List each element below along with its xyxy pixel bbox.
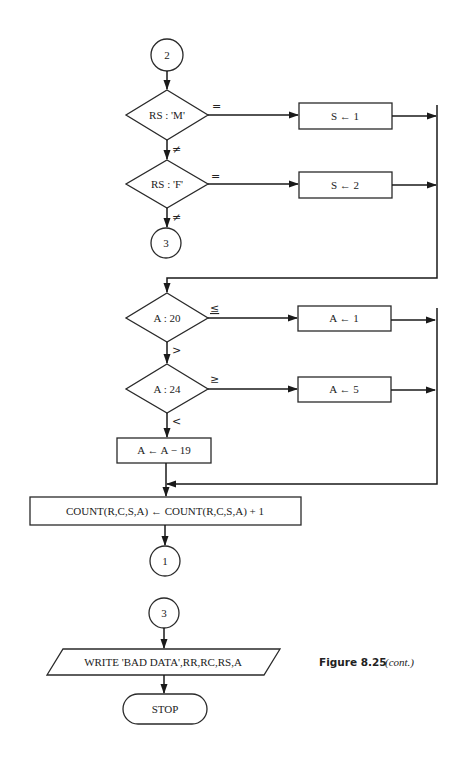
- decision-rs-f-label: RS : 'F': [151, 178, 183, 190]
- connector-3-exit: 3: [151, 228, 181, 258]
- decision-a-20-label: A : 20: [154, 312, 181, 324]
- process-s-1-label: S ← 1: [331, 110, 359, 122]
- decision-a-20: A : 20: [126, 293, 208, 342]
- io-write-label: WRITE 'BAD DATA',RR,RC,RS,A: [84, 656, 242, 668]
- decision-rs-m: RS : 'M': [126, 90, 208, 140]
- process-a-minus-19: A ← A − 19: [117, 438, 211, 463]
- process-s-2-label: S ← 2: [331, 179, 359, 191]
- io-write-bad-data: WRITE 'BAD DATA',RR,RC,RS,A: [47, 649, 280, 675]
- figure-caption-note: (cont.): [385, 656, 414, 669]
- connector-3-exit-label: 3: [163, 237, 169, 249]
- process-a-1: A ← 1: [298, 306, 391, 331]
- decision-a-24: A : 24: [126, 364, 208, 413]
- rs-m-equal-label: =: [212, 100, 221, 113]
- a-20-gt-label: >: [172, 344, 181, 357]
- process-count-increment: COUNT(R,C,S,A) ← COUNT(R,C,S,A) + 1: [30, 497, 301, 525]
- process-a-minus-19-label: A ← A − 19: [137, 444, 191, 456]
- process-count-label: COUNT(R,C,S,A) ← COUNT(R,C,S,A) + 1: [66, 505, 264, 518]
- decision-a-24-label: A : 24: [154, 383, 181, 395]
- process-a-5: A ← 5: [298, 377, 391, 402]
- rs-m-notequal-label: ≠: [172, 143, 181, 156]
- process-s-2: S ← 2: [299, 172, 392, 198]
- rs-f-notequal-label: ≠: [172, 211, 181, 224]
- figure-caption: Figure 8.25: [319, 656, 387, 668]
- flowchart-diagram: 2 RS : 'M' = ≠ S ← 1 RS : 'F' = ≠ S ← 2 …: [0, 0, 460, 761]
- process-s-1: S ← 1: [299, 103, 392, 129]
- connector-2: 2: [151, 39, 183, 71]
- decision-rs-f: RS : 'F': [126, 160, 208, 208]
- process-a-1-label: A ← 1: [329, 312, 358, 324]
- a-24-ge-label: ≥: [210, 373, 219, 386]
- rs-f-equal-label: =: [211, 170, 220, 183]
- a-20-le-label: ≤: [210, 302, 219, 315]
- process-a-5-label: A ← 5: [329, 383, 359, 395]
- connector-1-label: 1: [162, 555, 168, 567]
- terminal-stop-label: STOP: [152, 703, 179, 715]
- connector-3-entry-label: 3: [161, 607, 167, 619]
- connector-1: 1: [150, 546, 180, 576]
- terminal-stop: STOP: [123, 694, 207, 724]
- connector-3-entry: 3: [149, 598, 179, 628]
- connector-2-label: 2: [164, 49, 170, 61]
- decision-rs-m-label: RS : 'M': [149, 109, 185, 121]
- a-24-lt-label: <: [172, 415, 181, 428]
